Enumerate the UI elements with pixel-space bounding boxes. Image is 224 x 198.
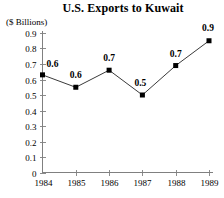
y-tick-label: 0.9 — [25, 29, 37, 39]
data-point-marker — [40, 72, 45, 77]
data-point-marker — [173, 63, 178, 68]
data-point-marker — [107, 68, 112, 73]
x-tick-label: 1984 — [35, 178, 54, 188]
x-tick-label: 1986 — [101, 178, 120, 188]
x-axis-tick-labels: 198419851986198719881989 — [35, 178, 220, 188]
y-tick-label: 0.2 — [25, 138, 36, 148]
y-tick-label: 0.4 — [25, 107, 37, 117]
chart-container: U.S. Exports to Kuwait ($ Billions) 0.60… — [0, 0, 224, 198]
data-point-marker — [140, 93, 145, 98]
plot-area: 0.60.60.70.50.70.9 198419851986198719881… — [0, 0, 224, 198]
x-tick-label: 1985 — [68, 178, 87, 188]
data-point-label: 0.7 — [103, 53, 115, 63]
data-point-label: 0.9 — [202, 23, 214, 33]
data-point-label: 0.5 — [134, 78, 146, 88]
y-tick-label: 0.6 — [25, 76, 37, 86]
data-point-label: 0.6 — [70, 70, 82, 80]
y-tick-label: 0.8 — [25, 44, 37, 54]
y-tick-label: 0.1 — [25, 153, 36, 163]
data-point-label: 0.7 — [170, 49, 182, 59]
y-tick-label: 0.3 — [25, 122, 37, 132]
x-tick-label: 1987 — [134, 178, 153, 188]
data-point-label: 0.6 — [47, 59, 59, 69]
y-tick-label: 0 — [32, 169, 37, 179]
y-tick-label: 0.5 — [25, 91, 37, 101]
x-tick-label: 1989 — [201, 178, 220, 188]
data-point-marker — [73, 85, 78, 90]
series-line — [43, 41, 210, 95]
y-axis-tick-labels: 0.90.80.70.60.50.40.30.20.10 — [25, 29, 37, 179]
y-tick-label: 0.7 — [25, 60, 37, 70]
series-markers — [40, 38, 212, 97]
x-tick-label: 1988 — [168, 178, 187, 188]
data-point-marker — [207, 38, 212, 43]
